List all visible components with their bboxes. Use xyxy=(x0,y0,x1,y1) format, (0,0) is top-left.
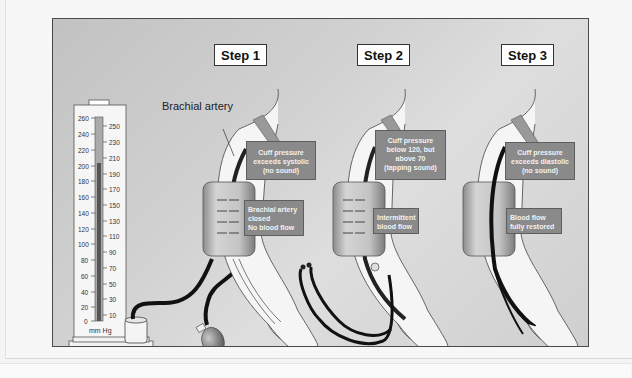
scale-left-0: 0 xyxy=(84,318,88,325)
scale-right-90: 90 xyxy=(109,249,116,256)
step-1-pressure-callout: Cuff pressure exceeds systolic (no sound… xyxy=(246,141,316,180)
scale-left-260: 260 xyxy=(78,115,89,122)
scale-left-100: 100 xyxy=(78,241,89,248)
step-2-flow-callout: Intermittent blood flow xyxy=(373,208,419,234)
scale-left-140: 140 xyxy=(78,210,89,217)
scale-right-10: 10 xyxy=(109,312,116,319)
step-2-label: Step 2 xyxy=(357,44,410,66)
scale-right-50: 50 xyxy=(109,281,116,288)
scale-left-200: 200 xyxy=(78,163,89,170)
scale-left-20: 20 xyxy=(81,304,88,311)
scale-left-120: 120 xyxy=(78,226,89,233)
illustration xyxy=(53,19,589,347)
scale-right-190: 190 xyxy=(109,171,120,178)
scale-left-160: 160 xyxy=(78,194,89,201)
manometer-units-label: mm Hg xyxy=(89,327,112,334)
scale-right-130: 130 xyxy=(109,218,120,225)
step-3-pressure-callout: Cuff pressure exceeds diastolic (no soun… xyxy=(505,142,575,180)
scale-right-30: 30 xyxy=(109,296,116,303)
scale-right-250: 250 xyxy=(109,123,120,130)
brachial-artery-label: Brachial artery xyxy=(162,100,233,112)
scale-right-230: 230 xyxy=(109,139,120,146)
step-2-pressure-callout: Cuff pressure below 120, but above 70 (t… xyxy=(375,130,446,180)
scale-left-40: 40 xyxy=(81,289,88,296)
scale-left-240: 240 xyxy=(78,131,89,138)
scale-left-80: 80 xyxy=(81,257,88,264)
step-1-label: Step 1 xyxy=(214,44,267,66)
step-1-flow-callout: Brachial artery closed No blood flow xyxy=(244,200,304,236)
scale-right-170: 170 xyxy=(109,186,120,193)
scale-right-150: 150 xyxy=(109,202,120,209)
scale-right-110: 110 xyxy=(109,233,119,240)
scale-left-180: 180 xyxy=(78,178,89,185)
scale-right-210: 210 xyxy=(109,155,120,162)
step-3-flow-callout: Blood flow fully restored xyxy=(506,208,562,234)
scale-left-220: 220 xyxy=(78,147,89,154)
diagram-panel: Step 1 Step 2 Step 3 Brachial artery Cuf… xyxy=(52,18,589,347)
bottom-strip xyxy=(0,363,631,378)
scale-right-70: 70 xyxy=(109,265,116,272)
scale-left-60: 60 xyxy=(81,273,88,280)
step-3-label: Step 3 xyxy=(501,44,554,66)
